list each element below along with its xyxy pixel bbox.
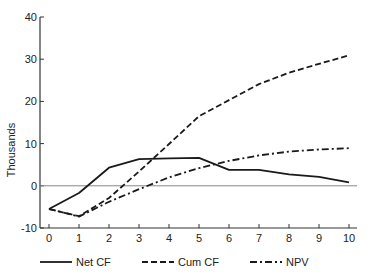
x-tick-label: 8 [286,232,292,244]
y-axis: -10010203040 [21,11,44,234]
x-tick-label: 3 [136,232,142,244]
x-tick-label: 1 [76,232,82,244]
series-net-cf [49,158,349,209]
legend-item-cum-cf: Cum CF [142,256,219,268]
x-tick-label: 7 [256,232,262,244]
x-tick-label: 4 [166,232,172,244]
x-tick-label: 10 [343,232,355,244]
x-tick-label: 5 [196,232,202,244]
x-axis: 012345678910 [40,224,357,244]
y-tick-label: 0 [31,180,37,192]
x-tick-label: 2 [106,232,112,244]
y-tick-label: 40 [25,11,37,23]
x-tick-label: 9 [316,232,322,244]
legend-label: Cum CF [178,256,219,268]
legend-label: NPV [286,256,309,268]
legend-item-net-cf: Net CF [40,256,111,268]
y-tick-label: 20 [25,95,37,107]
line-chart: -10010203040 012345678910 Thousands Net … [0,0,370,280]
y-tick-label: 30 [25,53,37,65]
y-axis-label: Thousands [5,122,17,177]
legend-item-npv: NPV [250,256,309,268]
y-tick-label: 10 [25,138,37,150]
x-tick-label: 0 [46,232,52,244]
x-tick-label: 6 [226,232,232,244]
series-group [49,55,349,216]
y-tick-label: -10 [21,222,37,234]
legend-label: Net CF [76,256,111,268]
legend: Net CFCum CFNPV [40,256,309,268]
series-cum-cf [49,55,349,216]
